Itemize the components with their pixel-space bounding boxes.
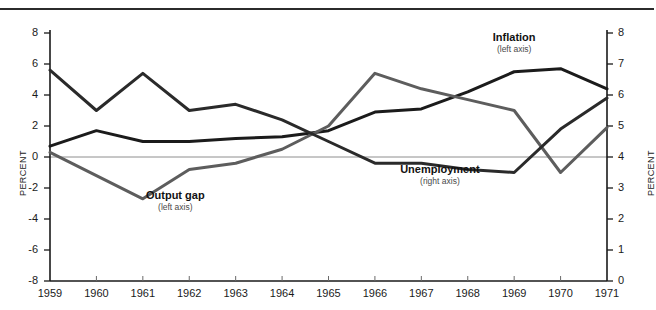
right-axis-tick-label: 8 <box>618 26 640 38</box>
series-label-name: Inflation <box>454 31 574 44</box>
left-axis-tick-label: -8 <box>16 274 38 286</box>
left-axis-tick-label: 4 <box>16 88 38 100</box>
series-label-output-gap: Output gap(left axis) <box>115 189 235 213</box>
series-label-name: Unemployment <box>380 163 500 176</box>
x-axis-tick-label: 1961 <box>120 287 166 299</box>
x-axis-tick-label: 1964 <box>259 287 305 299</box>
series-label-axis-note: (right axis) <box>380 176 500 187</box>
x-axis-tick-label: 1967 <box>398 287 444 299</box>
right-axis-tick-label: 5 <box>618 119 640 131</box>
left-axis-tick-label: 2 <box>16 119 38 131</box>
right-axis-title: PERCENT <box>646 150 656 196</box>
x-axis-tick-label: 1960 <box>73 287 119 299</box>
x-axis-tick-label: 1966 <box>352 287 398 299</box>
series-label-unemployment: Unemployment(right axis) <box>380 163 500 187</box>
series-label-axis-note: (left axis) <box>454 44 574 55</box>
series-label-name: Output gap <box>115 189 235 202</box>
series-label-inflation: Inflation(left axis) <box>454 31 574 55</box>
x-axis-tick-label: 1968 <box>445 287 491 299</box>
left-axis-tick-label: -6 <box>16 243 38 255</box>
x-axis-tick-label: 1971 <box>584 287 630 299</box>
right-axis-tick-label: 3 <box>618 181 640 193</box>
right-axis-tick-label: 2 <box>618 212 640 224</box>
left-axis-tick-label: -4 <box>16 212 38 224</box>
left-axis-tick-label: -2 <box>16 181 38 193</box>
series-label-axis-note: (left axis) <box>115 202 235 213</box>
left-axis-tick-label: 8 <box>16 26 38 38</box>
x-axis-tick-label: 1963 <box>213 287 259 299</box>
right-axis-tick-label: 6 <box>618 88 640 100</box>
left-axis-tick-label: 0 <box>16 150 38 162</box>
left-axis-tick-label: 6 <box>16 57 38 69</box>
right-axis-tick-label: 0 <box>618 274 640 286</box>
x-axis-tick-label: 1965 <box>306 287 352 299</box>
x-axis-tick-label: 1970 <box>538 287 584 299</box>
series-line-output-gap <box>50 73 607 199</box>
x-axis-tick-label: 1962 <box>166 287 212 299</box>
right-axis-tick-label: 4 <box>618 150 640 162</box>
right-axis-tick-label: 7 <box>618 57 640 69</box>
right-axis-tick-label: 1 <box>618 243 640 255</box>
x-axis-tick-label: 1969 <box>491 287 537 299</box>
x-axis-tick-label: 1959 <box>27 287 73 299</box>
